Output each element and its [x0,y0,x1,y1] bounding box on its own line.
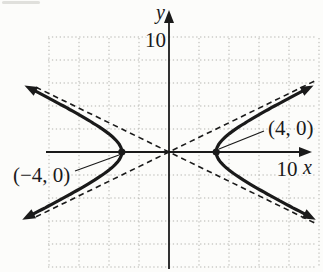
x-axis-tick-10: 10 [277,157,298,181]
y-axis-arrowhead [164,10,174,23]
y-axis-label: y [154,1,165,24]
branch-arrowhead [24,85,38,95]
y-axis-tick-10: 10 [145,28,166,52]
vertex-dot [213,148,220,155]
x-axis-label: x [302,156,312,178]
branch-arrowhead [22,209,36,219]
vertex-label-right: (4, 0) [268,116,314,140]
vertex-dot [118,148,125,155]
branch-arrowhead [300,85,314,95]
branch-arrowhead [302,209,316,219]
figure-canvas: y 10 10 x (4, 0) (−4, 0) [0,0,323,272]
leader-line-right-vertex [219,131,264,149]
hyperbola-graph: y 10 10 x (4, 0) (−4, 0) [0,0,323,272]
vertex-label-left: (−4, 0) [13,163,70,187]
